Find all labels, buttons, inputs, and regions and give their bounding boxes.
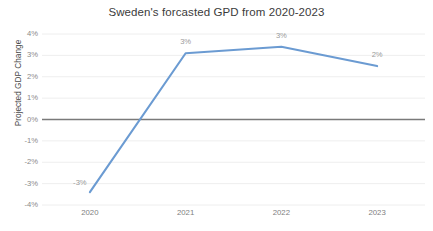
data-point-label: 3% <box>180 37 191 46</box>
line-chart: Sweden's forcasted GPD from 2020-2023 Pr… <box>0 0 433 231</box>
data-point-label: 2% <box>372 50 383 59</box>
data-point-label: 3% <box>276 30 287 39</box>
x-tick-label: 2023 <box>354 208 400 217</box>
x-tick-label: 2020 <box>67 208 113 217</box>
x-tick-label: 2022 <box>258 208 304 217</box>
plot-area <box>0 0 433 231</box>
x-tick-label: 2021 <box>163 208 209 217</box>
data-point-label: -3% <box>73 178 87 187</box>
